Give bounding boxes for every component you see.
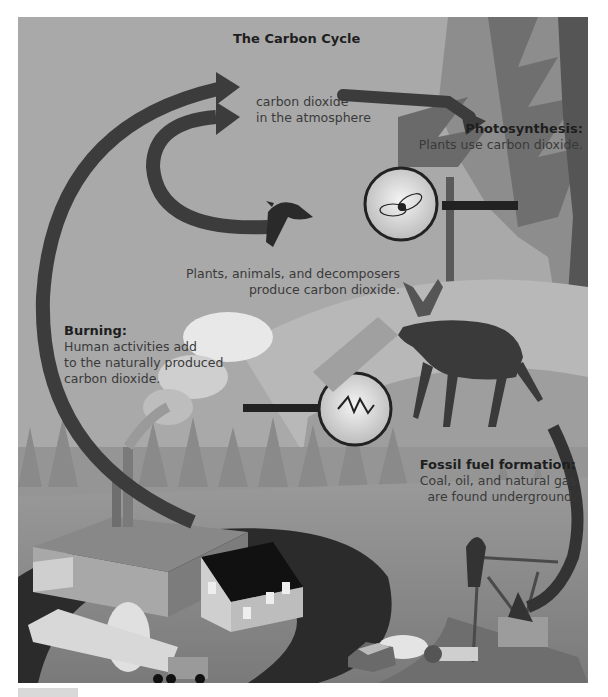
- burning-label: Burning: Human activities add to the nat…: [64, 323, 223, 387]
- fossil-fuel-heading: Fossil fuel formation:: [420, 457, 576, 473]
- arrowhead-icon: [216, 72, 240, 105]
- fossil-fuel-label: Fossil fuel formation: Coal, oil, and na…: [420, 457, 576, 505]
- respiration-line-1: Plants, animals, and decomposers: [186, 266, 400, 282]
- arrowhead-icon: [216, 102, 240, 135]
- fossil-fuel-line-1: Coal, oil, and natural gas: [420, 473, 576, 489]
- photosynthesis-label: Photosynthesis: Plants use carbon dioxid…: [419, 121, 583, 153]
- respiration-label: Plants, animals, and decomposers produce…: [186, 266, 400, 298]
- arrow-respiration-to-atmosphere: [153, 117, 268, 227]
- burning-line-3: carbon dioxide.: [64, 371, 223, 387]
- atmosphere-line-1: carbon dioxide: [256, 94, 371, 110]
- photosynthesis-text: Plants use carbon dioxide.: [419, 137, 583, 153]
- atmosphere-label: carbon dioxide in the atmosphere: [256, 94, 371, 126]
- magnifier-connector: [442, 201, 518, 210]
- fossil-fuel-line-2: are found underground.: [420, 489, 576, 505]
- carbon-cycle-diagram: The Carbon Cycle carbon dioxide in the a…: [18, 17, 588, 683]
- burning-heading: Burning:: [64, 323, 223, 339]
- burning-line-1: Human activities add: [64, 339, 223, 355]
- respiration-line-2: produce carbon dioxide.: [186, 282, 400, 298]
- figure-caption-cropped: [18, 688, 78, 697]
- burning-line-2: to the naturally produced: [64, 355, 223, 371]
- diagram-title: The Carbon Cycle: [233, 31, 360, 46]
- atmosphere-line-2: in the atmosphere: [256, 110, 371, 126]
- magnifier-connector: [243, 404, 318, 412]
- photosynthesis-heading: Photosynthesis:: [419, 121, 583, 137]
- raven-illustration: [266, 201, 313, 247]
